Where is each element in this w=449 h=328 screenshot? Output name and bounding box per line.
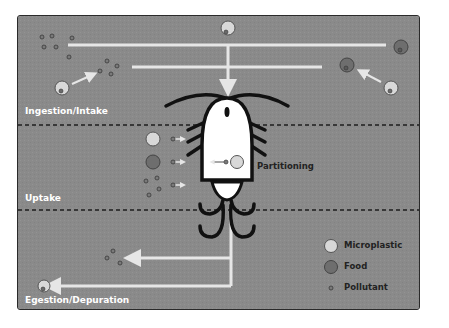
partitioning-label: Partitioning (257, 161, 314, 171)
zone-label-egestion: Egestion/Depuration (25, 295, 129, 305)
microplastic-top (221, 21, 235, 35)
egested-microplastic (38, 280, 50, 292)
zone-label-ingestion: Ingestion/Intake (25, 106, 108, 116)
microplastic-right (384, 81, 398, 95)
food-right-top (394, 40, 408, 54)
legend-label-food: Food (344, 261, 367, 271)
legend-label-pollutant: Pollutant (344, 282, 388, 292)
legend-label-microplastic: Microplastic (344, 240, 402, 250)
diagram-graphics (0, 0, 449, 328)
zone-label-uptake: Uptake (25, 193, 61, 203)
diagram-canvas: Ingestion/Intake Uptake Egestion/Depurat… (0, 0, 449, 328)
